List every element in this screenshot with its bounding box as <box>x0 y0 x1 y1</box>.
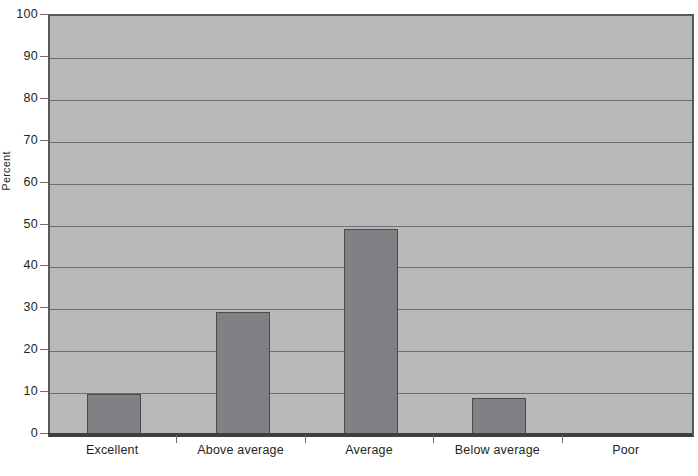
y-tick-label: 70 <box>23 133 38 147</box>
x-axis-line <box>48 433 692 435</box>
y-tick-label: 50 <box>23 217 38 231</box>
y-tick-label: 0 <box>31 426 38 440</box>
x-tick-label-average: Average <box>305 443 433 457</box>
y-tick-mark <box>40 224 48 225</box>
y-tick-mark <box>40 56 48 57</box>
y-tick-mark <box>40 182 48 183</box>
plot-area <box>48 14 694 437</box>
y-tick-label: 80 <box>23 91 38 105</box>
bar-slot <box>178 16 306 435</box>
y-tick-label: 10 <box>23 384 38 398</box>
bar-slot <box>50 16 178 435</box>
x-tick-mark <box>562 435 563 443</box>
y-tick-label: 90 <box>23 49 38 63</box>
x-tick-mark <box>305 435 306 443</box>
x-tick-label-excellent: Excellent <box>48 443 176 457</box>
y-tick-mark <box>40 433 48 434</box>
y-tick-label: 20 <box>23 342 38 356</box>
bar-slot <box>564 16 692 435</box>
y-axis-ticks: 0102030405060708090100 <box>0 0 48 476</box>
x-tick-label-above-average: Above average <box>176 443 304 457</box>
y-tick-mark <box>40 14 48 15</box>
x-tick-mark <box>176 435 177 443</box>
y-tick-label: 60 <box>23 175 38 189</box>
y-tick-label: 40 <box>23 258 38 272</box>
y-tick-mark <box>40 265 48 266</box>
bar-slot <box>307 16 435 435</box>
bar-above-average[interactable] <box>216 312 270 435</box>
bar-average[interactable] <box>344 229 398 435</box>
y-tick-mark <box>40 307 48 308</box>
bar-chart: Percent 0102030405060708090100 Excellent… <box>0 0 698 476</box>
bar-excellent[interactable] <box>87 394 141 435</box>
bar-slot <box>435 16 563 435</box>
y-tick-mark <box>40 391 48 392</box>
bars-layer <box>50 16 692 435</box>
x-tick-label-below-average: Below average <box>433 443 561 457</box>
y-tick-mark <box>40 349 48 350</box>
bar-below-average[interactable] <box>472 398 526 435</box>
x-tick-label-poor: Poor <box>562 443 690 457</box>
x-tick-mark <box>433 435 434 443</box>
figure-caption <box>48 467 690 476</box>
y-tick-mark <box>40 140 48 141</box>
y-tick-mark <box>40 98 48 99</box>
y-tick-label: 30 <box>23 300 38 314</box>
y-tick-label: 100 <box>16 7 38 21</box>
